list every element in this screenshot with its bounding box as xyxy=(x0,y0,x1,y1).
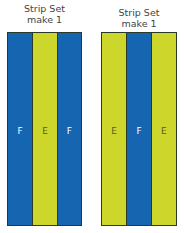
strip-set-title: Strip Set make 1 xyxy=(101,7,177,29)
strip-fabric-f: F xyxy=(126,33,150,225)
strip-label: F xyxy=(58,126,81,136)
title-line-1: Strip Set xyxy=(101,7,177,18)
strip-group: F E F xyxy=(7,32,82,226)
strip-label: F xyxy=(127,126,150,136)
title-line-1: Strip Set xyxy=(7,3,82,14)
strip-label: F xyxy=(8,126,32,136)
strip-fabric-f: F xyxy=(8,33,32,225)
strip-set-title: Strip Set make 1 xyxy=(7,3,82,25)
strip-label: E xyxy=(152,126,176,136)
strip-fabric-e: E xyxy=(151,33,176,225)
strip-group: E F E xyxy=(101,32,177,226)
strip-label: E xyxy=(102,126,126,136)
strip-fabric-e: E xyxy=(102,33,126,225)
strip-fabric-f: F xyxy=(57,33,81,225)
strip-fabric-e: E xyxy=(32,33,56,225)
title-line-2: make 1 xyxy=(101,18,177,29)
title-line-2: make 1 xyxy=(7,14,82,25)
strip-label: E xyxy=(33,126,56,136)
